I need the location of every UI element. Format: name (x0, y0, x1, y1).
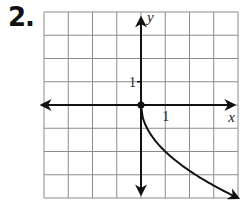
function-graph: x y 1 1 (0, 0, 242, 205)
y-axis-label: y (145, 9, 154, 25)
y-tick-label-1: 1 (129, 75, 136, 90)
curve-start-point (138, 102, 145, 109)
x-axis-label: x (227, 109, 235, 125)
x-tick-label-1: 1 (162, 109, 169, 124)
